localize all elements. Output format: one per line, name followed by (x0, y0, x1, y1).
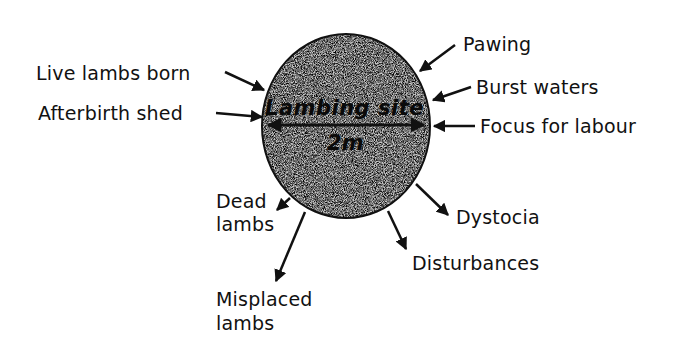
label-afterbirth-shed: Afterbirth shed (38, 101, 183, 125)
arrow-burst-waters (433, 87, 471, 100)
arrow-dystocia (416, 184, 448, 215)
arrow-afterbirth-shed (216, 113, 262, 117)
label-focus-for-labour: Focus for labour (480, 114, 636, 138)
arrow-dead-lambs (277, 198, 290, 210)
diagram-canvas (0, 0, 688, 353)
arrow-live-lambs-born (225, 72, 264, 90)
label-dead-lambs-line1: Dead (216, 189, 267, 213)
label-dystocia: Dystocia (456, 205, 540, 229)
label-misplaced-lambs-line2: lambs (216, 311, 274, 335)
lambing-site-measure: 2m (327, 131, 364, 155)
lambing-site-title: Lambing site (265, 96, 424, 120)
arrow-disturbances (388, 211, 406, 249)
arrow-pawing (420, 45, 455, 71)
label-dead-lambs-line2: lambs (216, 212, 274, 236)
label-disturbances: Disturbances (412, 251, 539, 275)
arrow-misplaced-lambs (276, 212, 305, 281)
label-misplaced-lambs-line1: Misplaced (216, 287, 313, 311)
label-burst-waters: Burst waters (476, 75, 599, 99)
label-pawing: Pawing (463, 32, 531, 56)
label-live-lambs-born: Live lambs born (36, 61, 190, 85)
